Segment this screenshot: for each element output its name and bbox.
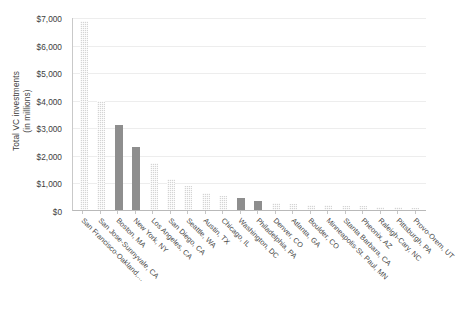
x-label-slot: Philadelphia, PA	[249, 214, 267, 310]
x-label-slot: Chicago, IL	[214, 214, 232, 310]
x-label-slot: Minneapolis-St. Paul, MN	[319, 214, 337, 310]
bar	[342, 206, 350, 210]
bar-slot	[284, 18, 301, 210]
bar	[394, 207, 402, 210]
x-label-slot: Stanta Barbara, CA	[337, 214, 355, 310]
bar-slot	[180, 18, 197, 210]
x-label-slot: Boston, MA	[109, 214, 127, 310]
bar-slot	[407, 18, 424, 210]
bar	[80, 21, 88, 210]
bar-slot	[389, 18, 406, 210]
x-label-slot: Boulder, CO	[302, 214, 320, 310]
bar	[376, 207, 384, 210]
x-label-slot: Pittsburgh, PA	[389, 214, 407, 310]
bar	[184, 186, 192, 210]
y-axis-tick-label: $4,000	[2, 96, 62, 106]
plot-area	[72, 18, 426, 211]
bar-slot	[354, 18, 371, 210]
bar	[219, 196, 227, 210]
x-label-slot: Denver, CO	[267, 214, 285, 310]
x-axis-tick-labels: San Francisco-Oakland,...San Jose-Sunnyv…	[72, 214, 426, 310]
bar-slot	[250, 18, 267, 210]
bar	[254, 201, 262, 210]
bar-slot	[337, 18, 354, 210]
bar-slot	[145, 18, 162, 210]
x-label-slot: San Francisco-Oakland,...	[74, 214, 92, 310]
bar	[202, 193, 210, 210]
y-axis-tick-label: $3,000	[2, 124, 62, 134]
x-label-slot: Seattle, WA	[179, 214, 197, 310]
y-axis-tick-label: $2,000	[2, 151, 62, 161]
bar	[97, 101, 105, 210]
x-label-slot: Pheonix, AZ	[354, 214, 372, 310]
bar-slot	[215, 18, 232, 210]
bar	[272, 203, 280, 210]
x-label-slot: Provo-Orem, UT	[407, 214, 425, 310]
bar	[237, 198, 245, 210]
bar-slot	[75, 18, 92, 210]
y-axis-tick-label: $5,000	[2, 69, 62, 79]
bar-slot	[92, 18, 109, 210]
x-label-slot: Washington, DC	[232, 214, 250, 310]
y-axis-tick-label: $7,000	[2, 14, 62, 24]
bar-series	[73, 18, 426, 210]
y-axis-tick-label: $6,000	[2, 41, 62, 51]
x-label-slot: Austin, TX	[197, 214, 215, 310]
x-label-slot: Atlanta, GA	[284, 214, 302, 310]
bar-slot	[319, 18, 336, 210]
bar-slot	[302, 18, 319, 210]
bar-slot	[267, 18, 284, 210]
bar	[115, 125, 123, 210]
x-label-slot: San Jose-Sunnyvale, CA	[92, 214, 110, 310]
bar-slot	[197, 18, 214, 210]
bar	[324, 205, 332, 210]
x-label-slot: Los Angeles, CA	[144, 214, 162, 310]
bar-slot	[372, 18, 389, 210]
x-label-slot: Raleigh-Cary, NC	[372, 214, 390, 310]
bar	[150, 163, 158, 210]
bar-slot	[127, 18, 144, 210]
bar-slot	[232, 18, 249, 210]
bar-slot	[162, 18, 179, 210]
x-label-slot: New York, NY	[127, 214, 145, 310]
bar-slot	[110, 18, 127, 210]
y-axis-tick-label: $1,000	[2, 179, 62, 189]
bar	[411, 208, 419, 210]
bar	[359, 206, 367, 210]
bar	[167, 179, 175, 210]
bar	[307, 205, 315, 210]
x-axis-tick-label: Provo-Orem, UT	[412, 216, 457, 261]
x-label-slot: San Diego, CA	[162, 214, 180, 310]
y-axis-tick-label: $0	[2, 207, 62, 217]
bar	[132, 147, 140, 210]
bar	[289, 204, 297, 210]
